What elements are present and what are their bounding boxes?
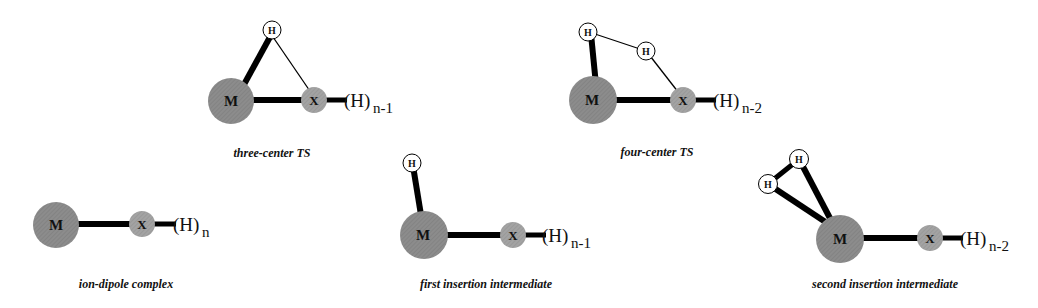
x-label: X (925, 231, 935, 246)
caption: ion-dipole complex (79, 277, 173, 291)
caption: four-center TS (621, 145, 694, 159)
group-subscript: n-2 (742, 100, 762, 116)
structure-four-center-ts: M X H H (H) n-2 four-center TS (569, 23, 762, 159)
hydrogen-group: (H) (960, 228, 986, 250)
m-h-bond (241, 37, 270, 90)
h-x-partial-bond (273, 37, 314, 97)
hydrogen-group: (H) (344, 90, 370, 112)
structure-second-insertion-intermediate: M X H H (H) n-2 second insertion interme… (759, 150, 1010, 292)
hydrogen-label: H (584, 27, 592, 38)
group-subscript: n-1 (571, 235, 591, 251)
x-label: X (678, 93, 688, 108)
group-subscript: n-2 (989, 238, 1009, 254)
x-label: X (508, 228, 518, 243)
metal-label: M (224, 93, 238, 109)
metal-label: M (585, 92, 599, 108)
group-subscript: n-1 (373, 100, 393, 116)
structure-ion-dipole-complex: M X (H) n ion-dipole complex (33, 202, 210, 291)
hydrogen-group: (H) (713, 90, 739, 112)
caption: second insertion intermediate (811, 277, 959, 291)
hydrogen-group: (H) (173, 214, 199, 236)
hydrogen-label: H (268, 25, 276, 36)
mechanism-diagram: M X H (H) n-1 three-center TS M X H H (H… (0, 0, 1038, 308)
group-subscript: n (202, 224, 210, 240)
caption: first insertion intermediate (420, 277, 553, 291)
hydrogen-label: H (764, 179, 772, 190)
caption: three-center TS (234, 146, 311, 160)
metal-label: M (49, 217, 63, 233)
x-label: X (137, 217, 147, 232)
hydrogen-group: (H) (542, 225, 568, 247)
hydrogen-label: H (642, 46, 650, 57)
x-label: X (309, 93, 319, 108)
structure-three-center-ts: M X H (H) n-1 three-center TS (208, 21, 393, 160)
m-h-bond (413, 166, 421, 215)
metal-label: M (416, 227, 430, 243)
metal-label: M (833, 231, 847, 247)
structure-first-insertion-intermediate: M X H (H) n-1 first insertion intermedia… (400, 154, 591, 291)
hydrogen-label: H (795, 154, 803, 165)
hydrogen-label: H (408, 158, 416, 169)
